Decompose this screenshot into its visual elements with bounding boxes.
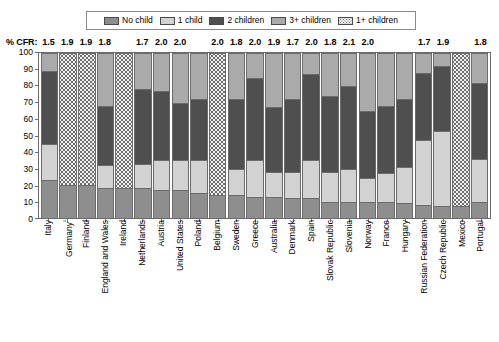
cfr-title: % CFR: (6, 37, 37, 47)
x-label-slot: Spain (302, 220, 321, 338)
x-axis-label-spain: Spain (307, 220, 316, 242)
x-label-slot: Austria (152, 220, 171, 338)
bar-poland[interactable] (190, 53, 208, 218)
bar-england-and-wales[interactable] (97, 53, 115, 218)
bar-sweden[interactable] (228, 53, 246, 218)
segment-two-children (134, 89, 152, 163)
bar-belgium[interactable] (209, 53, 227, 218)
legend-label: 1 child (178, 16, 203, 25)
x-label-slot: Hungary (396, 220, 415, 338)
legend-item-two-children[interactable]: 2 children (209, 16, 264, 25)
x-axis-label-italy: Italy (44, 220, 53, 236)
bar-slovak-republic[interactable] (321, 53, 339, 218)
legend-swatch-one-plus (338, 17, 353, 25)
x-axis-label-australia: Australia (270, 220, 279, 253)
cfr-value: 2.0 (171, 37, 189, 47)
legend-item-no-child[interactable]: No child (104, 16, 153, 25)
bar-australia[interactable] (265, 53, 283, 218)
segment-no-child (471, 202, 489, 219)
bar-hungary[interactable] (396, 53, 414, 218)
y-axis: 1009080706050403020100 (0, 52, 38, 219)
bar-russian-federation[interactable] (415, 53, 433, 218)
segment-two-children (433, 66, 451, 130)
x-axis-label-austria: Austria (157, 220, 166, 246)
x-axis-label-greece: Greece (251, 220, 260, 248)
bar-austria[interactable] (153, 53, 171, 218)
segment-one-child (246, 160, 264, 196)
segment-one-child (97, 165, 115, 188)
bar-mexico[interactable] (452, 53, 470, 218)
bar-spain[interactable] (302, 53, 320, 218)
x-axis-label-mexico: Mexico (458, 220, 467, 247)
segment-one-child (284, 172, 302, 198)
segment-no-child (115, 188, 133, 218)
bar-finland[interactable] (78, 53, 96, 218)
chart-root: { "legend": { "items": [ { "label": "No … (0, 0, 499, 342)
x-label-slot: Netherlands (133, 220, 152, 338)
legend-item-one-child[interactable]: 1 child (160, 16, 203, 25)
legend-label: 3+ children (289, 16, 331, 25)
y-tick-label: 0 (28, 215, 33, 224)
legend-item-one-plus[interactable]: 1+ children (338, 16, 398, 25)
segment-one-child (228, 169, 246, 195)
x-label-slot: Greece (246, 220, 265, 338)
bar-slovenia[interactable] (340, 53, 358, 218)
y-tick-label: 70 (24, 98, 33, 107)
x-label-slot: Finland (77, 220, 96, 338)
segment-three-plus (265, 53, 283, 107)
cfr-value: 1.5 (39, 37, 57, 47)
segment-one-child (471, 159, 489, 202)
y-tick-label: 20 (24, 181, 33, 190)
x-label-slot: Mexico (452, 220, 471, 338)
x-axis-label-germany: Germany² (62, 220, 73, 257)
bar-czech-republic[interactable] (433, 53, 451, 218)
bars-container (39, 53, 490, 218)
bar-france[interactable] (377, 53, 395, 218)
bar-greece[interactable] (246, 53, 264, 218)
cfr-value: 1.9 (77, 37, 95, 47)
segment-two-children (377, 106, 395, 174)
bar-germany[interactable] (59, 53, 77, 218)
x-label-slot: Slovenia (340, 220, 359, 338)
bar-denmark[interactable] (284, 53, 302, 218)
x-label-slot: Russian Federation (415, 220, 434, 338)
segment-no-child (321, 202, 339, 219)
segment-two-children (302, 74, 320, 160)
cfr-value: 2.0 (152, 37, 170, 47)
bar-portugal[interactable] (471, 53, 489, 218)
segment-one-plus (78, 53, 96, 185)
y-tick-label: 10 (24, 198, 33, 207)
cfr-value: 1.7 (133, 37, 151, 47)
segment-no-child (359, 202, 377, 219)
segment-three-plus (172, 53, 190, 103)
segment-one-child (377, 173, 395, 201)
x-label-slot: Czech Republic (434, 220, 453, 338)
x-axis-label-russian-federation: Russian Federation (420, 220, 429, 294)
cfr-value: 1.7 (415, 37, 433, 47)
bar-united-states[interactable] (172, 53, 190, 218)
cfr-value: 1.8 (227, 37, 245, 47)
segment-one-child (359, 178, 377, 201)
x-axis-label-england-and-wales: England and Wales (101, 220, 110, 293)
legend-item-three-plus[interactable]: 3+ children (271, 16, 331, 25)
segment-no-child (433, 206, 451, 218)
segment-one-plus (59, 53, 77, 185)
segment-one-child (415, 140, 433, 204)
segment-two-children (340, 86, 358, 169)
bar-norway[interactable] (359, 53, 377, 218)
bar-netherlands[interactable] (134, 53, 152, 218)
segment-no-child (396, 203, 414, 218)
segment-one-child (340, 169, 358, 202)
bar-italy[interactable] (41, 53, 59, 218)
segment-one-child (153, 160, 171, 190)
cfr-value: 1.8 (472, 37, 490, 47)
x-axis: ItalyGermany²FinlandEngland and WalesIre… (38, 220, 491, 340)
legend-swatch-no-child (104, 17, 119, 25)
legend-label: 2 children (227, 16, 264, 25)
segment-one-plus (452, 53, 470, 206)
segment-one-child (265, 172, 283, 197)
x-label-slot: Germany² (58, 220, 77, 338)
bar-ireland[interactable] (115, 53, 133, 218)
segment-three-plus (97, 53, 115, 106)
segment-no-child (78, 185, 96, 218)
